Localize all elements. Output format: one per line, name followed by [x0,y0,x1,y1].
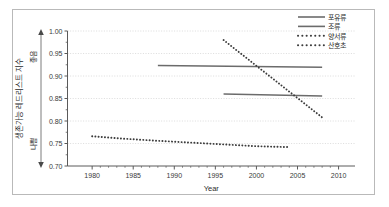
y-axis-good-label: 좋음 [30,50,38,63]
y-tick-label: 0.85 [49,95,63,102]
x-tick-label: 1995 [208,172,224,179]
y-tick-label: 0.90 [49,73,63,80]
x-tick-label: 1985 [125,172,141,179]
x-axis-title: Year [204,184,220,193]
x-tick-label: 1990 [166,172,182,179]
legend-label-3: 산호초 [328,41,347,50]
series-line-3 [92,136,289,147]
legend-label-0: 포유류 [328,14,347,22]
y-tick-label: 0.80 [49,118,63,125]
series-line-0 [158,65,322,67]
legend-label-2: 양서류 [328,32,347,41]
legend-label-1: 조류 [328,23,341,31]
chart-container: 0.700.750.800.850.900.951.00198019851990… [0,0,389,207]
x-tick-label: 2005 [290,172,306,179]
y-axis-title: 생존가능 레드리스트 지수 [14,58,24,140]
y-tick-label: 0.95 [49,50,63,57]
series-line-1 [224,94,323,96]
y-tick-label: 0.75 [49,140,63,147]
x-tick-label: 1980 [84,172,100,179]
x-tick-label: 2000 [249,172,265,179]
y-tick-label: 0.70 [49,163,63,170]
y-axis-bad-label: 나쁨 [29,137,38,150]
arrow-down-icon [38,162,44,168]
chart-plot: 0.700.750.800.850.900.951.00198019851990… [0,0,389,207]
series-line-2 [224,40,323,117]
y-tick-label: 1.00 [49,28,63,35]
x-tick-label: 2010 [331,172,347,179]
arrow-up-icon [38,29,44,35]
